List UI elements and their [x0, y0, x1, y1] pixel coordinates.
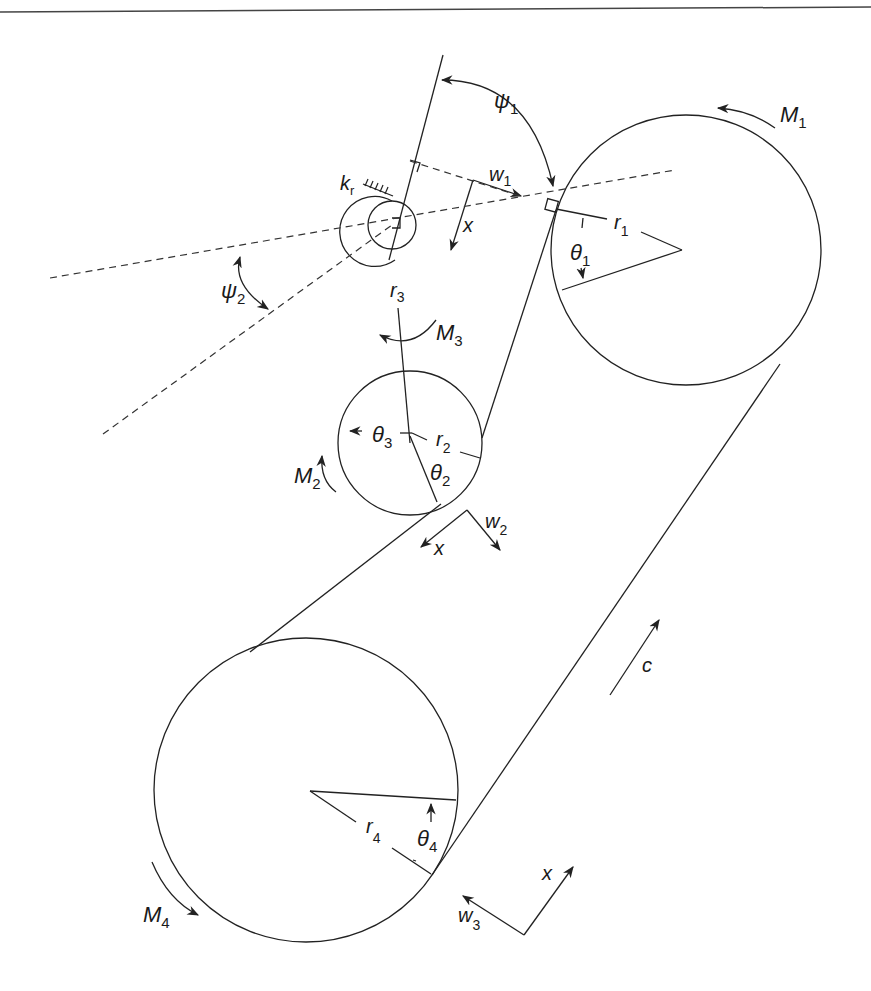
label-r4: r4: [366, 815, 381, 846]
r4-line: [310, 791, 356, 822]
r3-arm-line: [398, 308, 410, 443]
pulley-4: [154, 638, 458, 942]
r4-line-b: [392, 848, 431, 874]
label-r3: r3: [390, 279, 405, 305]
label-w3: w3: [458, 904, 480, 933]
label-M1: M1: [780, 102, 807, 131]
moment-M1-arrow: [718, 108, 775, 128]
label-w2: w2: [485, 510, 507, 538]
label-w1: w1: [489, 163, 511, 189]
belt-drive-diagram: ψ1 ψ2 kr w1 x M1 r1 θ1 r3 M3 θ3 r2 θ2 M2…: [0, 0, 871, 991]
tensioner-outer-ring: [368, 201, 416, 249]
top-rule: [0, 7, 871, 12]
label-r1: r1: [614, 211, 629, 239]
label-theta2: θ2: [430, 460, 450, 489]
r2-line-b: [460, 452, 480, 458]
label-x3: x: [541, 862, 553, 884]
moment-M2-arrow: [322, 456, 336, 492]
right-angle-marker: [545, 199, 558, 212]
label-kr: kr: [340, 172, 355, 198]
label-r2: r2: [436, 428, 451, 456]
label-x1: x: [462, 214, 474, 236]
theta1-arrow: [581, 268, 583, 278]
r1-line-b: [641, 232, 682, 250]
belt-span-2-4: [250, 504, 441, 652]
belt-span-1-2: [482, 210, 556, 438]
r4-top-ray: [310, 791, 456, 800]
label-theta3: θ3: [372, 422, 392, 451]
r2-line: [412, 433, 427, 440]
label-theta1: θ1: [570, 240, 590, 269]
dashed-arm-line: [103, 225, 392, 434]
theta1-tick: [582, 218, 583, 228]
tensioner-inner-spring: [340, 196, 395, 266]
spring-hatch-icon: [363, 179, 393, 196]
label-M2: M2: [294, 463, 321, 492]
label-psi1: ψ1: [494, 88, 518, 117]
label-x2: x: [433, 537, 445, 559]
label-c: c: [642, 654, 652, 676]
r1-line: [556, 209, 607, 219]
moment-M3-arrow: [380, 320, 436, 341]
x2-axis-arrow: [421, 510, 467, 547]
pulley-1: [551, 115, 821, 385]
labels: ψ1 ψ2 kr w1 x M1 r1 θ1 r3 M3 θ3 r2 θ2 M2…: [143, 88, 807, 933]
label-M4: M4: [143, 902, 170, 931]
label-theta4: θ4: [417, 826, 437, 855]
theta4-tick: [413, 860, 416, 861]
label-M3: M3: [436, 320, 463, 349]
belt-span-4-1: [432, 364, 780, 875]
